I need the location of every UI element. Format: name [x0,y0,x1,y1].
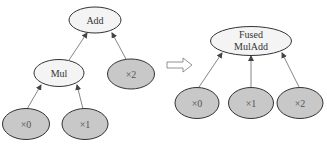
edge-x0-to-mul [27,85,41,109]
edge-x2-to-fused [282,53,299,87]
node-x2-right-label: ×2 [295,98,306,109]
node-x0-left: ×0 [3,109,50,140]
node-x2-left: ×2 [108,59,155,89]
node-mul: Mul [34,60,84,87]
node-fused-muladd: Fused MulAdd [211,27,292,56]
node-x1-left-label: ×1 [80,119,91,130]
node-x1-right: ×1 [229,88,274,119]
node-x0-right: ×0 [175,88,219,119]
right-graph-edges [199,53,299,87]
edge-x0-to-fused [199,53,222,87]
node-x1-right-label: ×1 [246,98,257,109]
edge-mul-to-add [69,33,87,60]
node-fused-label-line1: Fused [239,29,263,40]
node-fused-label-line2: MulAdd [234,41,268,52]
node-x2-right: ×2 [277,88,323,119]
node-mul-label: Mul [51,68,68,79]
node-x0-right-label: ×0 [192,98,203,109]
fusion-diagram: Add Mul ×2 ×0 ×1 Fused MulAdd ×0 ×1 [0,0,327,150]
node-x2-left-label: ×2 [126,69,137,80]
hollow-right-arrow-icon [167,58,192,72]
edge-x2-to-add [112,33,126,59]
node-add-label: Add [86,15,103,26]
node-x1-left: ×1 [62,109,108,140]
node-add: Add [69,7,121,33]
node-x0-left-label: ×0 [21,119,32,130]
edge-x1-to-mul [77,85,83,109]
